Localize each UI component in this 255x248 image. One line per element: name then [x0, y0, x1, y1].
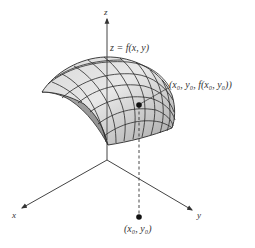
y-axis-label: y: [196, 210, 201, 220]
x-axis: [22, 160, 107, 208]
x-axis-label: x: [11, 210, 16, 220]
surface-point-label: (x₀, y₀, f(x₀, y₀)): [169, 79, 232, 91]
z-axis-label: z: [103, 7, 108, 17]
y-axis: [107, 160, 192, 210]
surface-point: [136, 102, 142, 108]
surface-diagram: z x y z = f(x, y) (x₀, y₀, f(x₀, y₀)) (x…: [0, 0, 255, 248]
surface-label: z = f(x, y): [109, 42, 150, 54]
domain-point: [136, 214, 142, 220]
domain-point-label: (x₀, y₀): [124, 223, 152, 235]
surface: [42, 57, 175, 145]
